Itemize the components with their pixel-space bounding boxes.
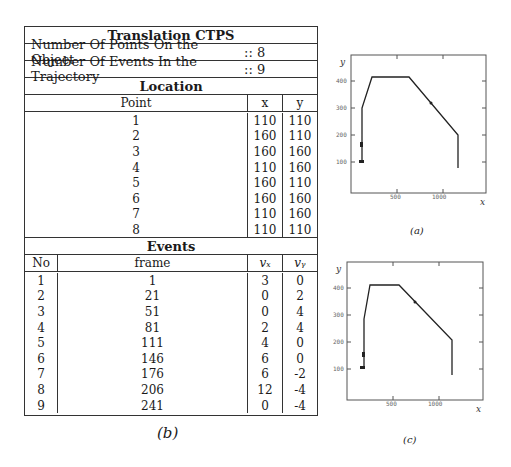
cell-y: 110 [283,175,317,191]
svg-text:x: x [480,197,485,207]
cell-vx: 2 [248,320,283,336]
cell-y: 160 [283,160,317,176]
svg-text:300: 300 [333,311,344,318]
cell-point: 6 [25,191,248,207]
cell-point: 2 [25,129,248,145]
cell-frame: 241 [58,398,248,414]
cell-x: 160 [248,175,283,191]
svg-text:100: 100 [333,365,344,372]
cell-no: 3 [25,304,58,320]
table-row: 2160110 [25,129,317,145]
cell-y: 160 [283,191,317,207]
cell-frame: 1 [58,273,248,289]
svg-text:1000: 1000 [428,400,443,407]
cell-no: 9 [25,398,58,414]
svg-text:y: y [335,264,342,274]
cell-vy: -4 [283,398,317,414]
cell-point: 3 [25,144,248,160]
svg-text:400: 400 [336,77,347,84]
cell-point: 4 [25,160,248,176]
cell-point: 7 [25,207,248,223]
plot-c-ticks: 400 300 200 100 500 1000 y x [333,264,481,414]
cell-vy: 4 [283,320,317,336]
cell-vx: 6 [248,351,283,367]
table-row: 1130 [25,273,317,289]
table-row: 1110110 [25,113,317,129]
location-header-row: Point x y [25,95,317,112]
cell-y: 110 [283,129,317,145]
table-row: 511140 [25,335,317,351]
table-row: 6160160 [25,191,317,207]
cell-y: 160 [283,144,317,160]
cell-point: 5 [25,175,248,191]
header-vy: vᵧ [283,255,317,271]
cell-x: 160 [248,144,283,160]
info-value: :: 8 [244,45,265,60]
plot-a-caption: (a) [410,225,424,236]
cell-no: 4 [25,320,58,336]
cell-vy: 0 [283,335,317,351]
plot-c-frame [347,262,483,400]
cell-vy: 0 [283,351,317,367]
cell-vx: 0 [248,304,283,320]
header-frame: frame [58,255,248,271]
table-row: 5160110 [25,175,317,191]
table-row: 3160160 [25,144,317,160]
cell-vy: -4 [283,382,317,398]
cell-frame: 21 [58,289,248,305]
cell-no: 2 [25,289,58,305]
cell-vx: 0 [248,289,283,305]
svg-text:y: y [339,57,346,67]
cell-vy: 0 [283,273,317,289]
svg-text:500: 500 [386,400,397,407]
table-row: 7110160 [25,207,317,223]
info-label: Number Of Events In the Trajectory [31,54,244,84]
cell-vy: -2 [283,367,317,383]
cell-x: 110 [248,207,283,223]
table-row: 48124 [25,320,317,336]
svg-text:400: 400 [333,284,344,291]
cell-vx: 0 [248,398,283,414]
cell-y: 110 [283,113,317,129]
header-x: x [248,95,283,111]
cell-vx: 12 [248,382,283,398]
cell-no: 1 [25,273,58,289]
cell-x: 110 [248,222,283,238]
cell-frame: 51 [58,304,248,320]
table-caption: (b) [157,424,178,442]
event-rows: 1130 22102 35104 48124 511140 614660 717… [25,272,317,415]
svg-text:x: x [476,404,481,414]
svg-text:1000: 1000 [432,193,447,200]
cell-y: 160 [283,207,317,223]
table-row: 22102 [25,289,317,305]
svg-text:300: 300 [336,104,347,111]
cell-vx: 6 [248,367,283,383]
location-rows: 1110110 2160110 3160160 4110160 5160110 … [25,112,317,238]
cell-no: 7 [25,367,58,383]
cell-x: 110 [248,160,283,176]
svg-text:200: 200 [336,131,347,138]
table-row: 8110110 [25,222,317,238]
cell-vx: 3 [248,273,283,289]
plot-a-ticks: 400 300 200 100 500 1000 y x [336,57,485,207]
header-vx: vₓ [248,255,283,271]
cell-frame: 176 [58,367,248,383]
cell-vy: 2 [283,289,317,305]
cell-no: 6 [25,351,58,367]
cell-vy: 4 [283,304,317,320]
info-row-events: Number Of Events In the Trajectory :: 9 [25,61,317,78]
header-point: Point [25,95,248,111]
cell-point: 8 [25,222,248,238]
cell-vx: 4 [248,335,283,351]
plot-a-markers [359,102,433,164]
plot-c-caption: (c) [403,434,416,445]
cell-frame: 146 [58,351,248,367]
table-row: 4110160 [25,160,317,176]
events-header-row: No frame vₓ vᵧ [25,255,317,272]
translation-ctps-table: Translation CTPS Number Of Points On the… [24,26,318,416]
cell-x: 160 [248,191,283,207]
plot-c-markers [360,301,417,370]
cell-no: 8 [25,382,58,398]
table-row: 71766-2 [25,367,317,383]
info-value: :: 9 [244,62,265,77]
